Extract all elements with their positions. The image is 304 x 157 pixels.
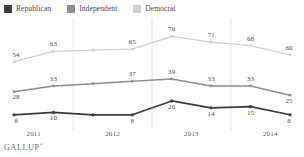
brand-name: GALLUP	[4, 143, 40, 152]
data-point-independent-1[interactable]	[52, 85, 55, 88]
legend-swatch-republican	[4, 5, 12, 13]
data-point-democrat-2[interactable]	[91, 49, 94, 52]
legend-label-republican: Republican	[16, 5, 51, 13]
legend-label-independent: Independent	[79, 5, 117, 13]
data-point-republican-2[interactable]	[91, 113, 94, 116]
value-label-independent-3: 37	[129, 70, 136, 78]
data-point-democrat-6[interactable]	[249, 44, 252, 47]
chart-container: Republican Independent Democrat 81082014…	[0, 0, 304, 157]
value-label-democrat-0: 54	[12, 51, 19, 59]
value-label-republican-0: 8	[14, 117, 18, 125]
plot-area	[0, 18, 304, 130]
value-label-independent-5: 33	[208, 75, 215, 83]
x-axis: 2011201220132014	[0, 130, 304, 142]
value-label-independent-6: 33	[247, 75, 254, 83]
value-label-republican-5: 14	[208, 110, 215, 118]
value-label-republican-1: 10	[50, 114, 57, 122]
value-label-independent-4: 39	[168, 68, 175, 76]
data-point-democrat-1[interactable]	[52, 50, 55, 53]
value-label-independent-0: 28	[12, 93, 19, 101]
data-point-independent-5[interactable]	[210, 85, 213, 88]
data-point-independent-3[interactable]	[131, 80, 134, 83]
legend-swatch-independent	[67, 5, 75, 13]
value-label-democrat-4: 76	[168, 25, 175, 33]
data-point-democrat-0[interactable]	[13, 60, 16, 63]
data-point-democrat-7[interactable]	[289, 53, 292, 56]
chart-legend: Republican Independent Democrat	[4, 3, 192, 15]
value-label-independent-1: 33	[50, 75, 57, 83]
value-label-democrat-5: 71	[208, 31, 215, 39]
data-point-independent-4[interactable]	[170, 78, 173, 81]
gallup-logo: GALLUP®	[4, 142, 44, 152]
data-point-democrat-5[interactable]	[210, 41, 213, 44]
x-axis-tick-2012: 2012	[105, 130, 120, 138]
data-point-independent-2[interactable]	[91, 82, 94, 85]
value-label-republican-7: 8	[287, 117, 291, 125]
brand-mark: ®	[40, 142, 44, 147]
value-label-democrat-3: 65	[129, 38, 136, 46]
value-label-democrat-7: 60	[285, 44, 292, 52]
legend-label-democrat: Democrat	[145, 5, 175, 13]
data-point-democrat-3[interactable]	[131, 48, 134, 51]
data-point-independent-7[interactable]	[289, 94, 292, 97]
legend-item-independent[interactable]: Independent	[67, 5, 117, 13]
data-point-independent-6[interactable]	[249, 85, 252, 88]
plot-svg	[0, 18, 304, 130]
x-axis-tick-2014: 2014	[263, 130, 278, 138]
value-label-republican-3: 8	[130, 117, 134, 125]
data-point-democrat-4[interactable]	[170, 35, 173, 38]
legend-item-republican[interactable]: Republican	[4, 5, 51, 13]
legend-item-democrat[interactable]: Democrat	[133, 5, 175, 13]
legend-swatch-democrat	[133, 5, 141, 13]
value-label-independent-7: 25	[285, 97, 292, 105]
value-label-democrat-6: 68	[247, 35, 254, 43]
value-label-republican-4: 20	[168, 103, 175, 111]
x-axis-tick-2011: 2011	[26, 130, 41, 138]
value-label-democrat-1: 63	[50, 40, 57, 48]
value-label-republican-6: 15	[247, 109, 254, 117]
x-axis-tick-2013: 2013	[184, 130, 199, 138]
